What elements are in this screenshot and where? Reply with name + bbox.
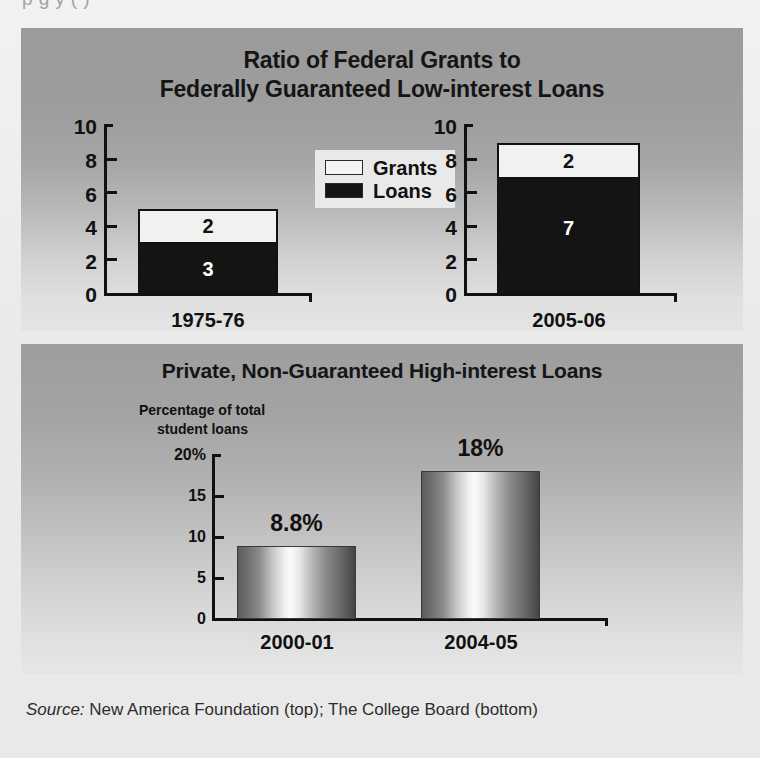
- right-tick-4: [467, 225, 477, 228]
- right-y-axis-line: [464, 124, 467, 293]
- cut-off-text-fragment: p g y ( ): [22, 0, 722, 10]
- bottom-bar-2004-05: [421, 471, 540, 619]
- left-category-label: 1975-76: [108, 310, 308, 330]
- left-ytick-label-0: 0: [43, 284, 97, 305]
- bottom-category-label-2004-05: 2004-05: [411, 632, 551, 652]
- left-ytick-label-10: 10: [43, 116, 97, 137]
- left-tick-8: [107, 158, 117, 161]
- left-ytick-label-2: 2: [43, 251, 97, 272]
- bottom-ytick-label-5: 5: [141, 570, 206, 586]
- left-y-axis-top-cap: [104, 124, 113, 127]
- legend-swatch-grants-icon: [325, 160, 363, 175]
- left-bar-value-grants: 2: [138, 216, 278, 236]
- source-note: Source: New America Foundation (top); Th…: [26, 700, 538, 720]
- right-tick-2: [467, 258, 477, 261]
- left-ytick-label-4: 4: [43, 217, 97, 238]
- bottom-chart-panel: Private, Non-Guaranteed High-interest Lo…: [21, 344, 743, 674]
- chart-figure: p g y ( ) Ratio of Federal Grants to Fed…: [0, 0, 760, 758]
- left-y-axis-line: [104, 124, 107, 293]
- left-tick-6: [107, 191, 117, 194]
- bottom-tick-15: [215, 495, 224, 498]
- top-chart-panel: Ratio of Federal Grants to Federally Gua…: [21, 28, 743, 331]
- legend-swatch-loans-icon: [325, 183, 363, 198]
- right-ytick-label-10: 10: [403, 116, 457, 137]
- bottom-bar-2000-01: [237, 546, 356, 619]
- bottom-ytick-label-10: 10: [141, 529, 206, 545]
- bottom-ytick-label-20: 20%: [141, 447, 206, 463]
- left-x-axis-end-cap: [309, 293, 312, 302]
- bottom-category-label-2000-01: 2000-01: [227, 632, 367, 652]
- right-x-axis-end-cap: [674, 293, 677, 302]
- right-ytick-label-0: 0: [403, 284, 457, 305]
- bottom-tick-10: [215, 536, 224, 539]
- bottom-bar-value-2000-01: 8.8%: [237, 512, 356, 535]
- right-ytick-label-2: 2: [403, 251, 457, 272]
- right-tick-8: [467, 158, 477, 161]
- axis-caption-line-2: student loans: [139, 420, 369, 439]
- right-ytick-label-8: 8: [403, 150, 457, 171]
- right-ytick-label-4: 4: [403, 217, 457, 238]
- right-bar-value-grants: 2: [497, 151, 640, 171]
- left-tick-4: [107, 225, 117, 228]
- right-ytick-label-6: 6: [403, 184, 457, 205]
- right-y-axis-top-cap: [464, 124, 473, 127]
- bottom-chart-axis-caption: Percentage of total student loans: [139, 401, 369, 439]
- left-ytick-label-6: 6: [43, 184, 97, 205]
- right-category-label: 2005-06: [469, 310, 669, 330]
- source-label: Source:: [26, 700, 85, 719]
- left-tick-2: [107, 258, 117, 261]
- top-chart-title: Ratio of Federal Grants to Federally Gua…: [21, 46, 743, 103]
- right-tick-6: [467, 191, 477, 194]
- left-ytick-label-8: 8: [43, 150, 97, 171]
- right-bar-value-loans: 7: [497, 218, 640, 238]
- bottom-chart-title: Private, Non-Guaranteed High-interest Lo…: [21, 358, 743, 384]
- top-chart-title-line-1: Ratio of Federal Grants to: [21, 46, 743, 75]
- bottom-y-axis-top-cap: [212, 454, 221, 457]
- axis-caption-line-1: Percentage of total: [139, 401, 369, 420]
- bottom-x-axis-end-cap: [605, 618, 608, 626]
- bottom-bar-value-2004-05: 18%: [421, 437, 540, 460]
- bottom-tick-5: [215, 577, 224, 580]
- left-bar-value-loans: 3: [138, 259, 278, 279]
- bottom-ytick-label-15: 15: [141, 488, 206, 504]
- bottom-ytick-label-0: 0: [141, 611, 206, 627]
- top-chart-title-line-2: Federally Guaranteed Low-interest Loans: [21, 75, 743, 104]
- source-text: New America Foundation (top); The Colleg…: [85, 700, 538, 719]
